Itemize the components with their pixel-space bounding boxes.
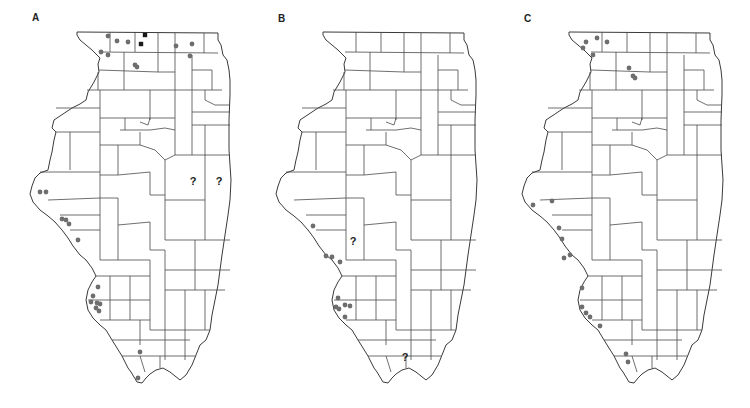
record-dot-icon (550, 199, 555, 204)
record-dot-icon (76, 238, 81, 243)
record-dot-icon (605, 40, 610, 45)
panel-label-b: B (278, 13, 285, 24)
record-dot-icon (97, 309, 102, 314)
record-dot-icon (174, 44, 179, 49)
record-dot-icon (188, 54, 193, 59)
record-dot-icon (38, 190, 43, 195)
panel-a-map (30, 32, 231, 383)
record-dot-icon (626, 360, 631, 365)
record-dot-icon (557, 226, 562, 231)
record-dot-icon (337, 307, 342, 312)
record-dot-icon (330, 255, 335, 260)
uncertain-record-icon: ? (190, 175, 197, 187)
record-dot-icon (336, 296, 341, 301)
record-dot-icon (633, 76, 638, 81)
record-dot-icon (91, 294, 96, 299)
record-dot-icon (591, 53, 596, 58)
record-dot-icon (343, 315, 348, 320)
panel-label-a: A (32, 12, 39, 23)
record-dot-icon (580, 286, 585, 291)
record-dot-icon (562, 256, 567, 261)
record-dot-icon (106, 34, 111, 39)
record-dot-icon (560, 237, 565, 242)
record-dot-icon (136, 376, 141, 381)
record-dot-icon (67, 222, 72, 227)
record-dot-icon (190, 42, 195, 47)
record-dot-icon (588, 315, 593, 320)
record-dot-icon (624, 352, 629, 357)
record-dot-icon (531, 203, 536, 208)
record-dot-icon (64, 218, 69, 223)
record-square-icon (139, 42, 143, 46)
record-dot-icon (581, 46, 586, 51)
record-dot-icon (44, 190, 49, 195)
record-dot-icon (584, 40, 589, 45)
uncertain-record-icon: ? (350, 235, 357, 247)
record-dot-icon (106, 53, 111, 58)
figure: ???? A B C (0, 0, 750, 408)
record-dot-icon (324, 254, 329, 259)
panel-c-map (522, 32, 723, 383)
panel-label-c: C (524, 13, 531, 24)
record-dot-icon (135, 65, 140, 70)
record-dot-icon (96, 285, 101, 290)
record-dot-icon (89, 300, 94, 305)
record-dot-icon (580, 305, 585, 310)
record-dot-icon (343, 303, 348, 308)
record-dot-icon (126, 40, 131, 45)
record-dot-icon (338, 260, 343, 265)
record-square-icon (143, 33, 147, 37)
record-dot-icon (60, 217, 65, 222)
record-dot-icon (138, 350, 143, 355)
record-dot-icon (99, 50, 104, 55)
panel-b-map (276, 32, 477, 383)
record-dot-icon (595, 36, 600, 41)
maps-canvas: ???? (0, 0, 750, 408)
record-dot-icon (311, 224, 316, 229)
record-dot-icon (98, 302, 103, 307)
record-dot-icon (627, 66, 632, 71)
uncertain-record-icon: ? (402, 351, 409, 363)
record-dot-icon (568, 253, 573, 258)
uncertain-record-icon: ? (216, 175, 223, 187)
record-dot-icon (115, 39, 120, 44)
record-dot-icon (584, 311, 589, 316)
record-dot-icon (348, 304, 353, 309)
record-dot-icon (598, 324, 603, 329)
